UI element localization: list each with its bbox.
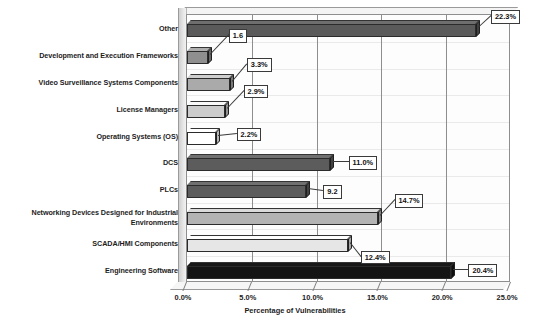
- gridline-horizontal: [187, 203, 509, 204]
- data-label: 20.4%: [468, 264, 497, 278]
- data-label: 9.2: [323, 185, 341, 199]
- bar: [187, 128, 221, 146]
- data-label: 2.2%: [237, 128, 262, 142]
- gridline-horizontal: [187, 122, 509, 123]
- value-axis-title: Percentage of Vulnerabilities: [0, 306, 534, 315]
- vulnerability-bar-chart: OtherDevelopment and Execution Framework…: [0, 0, 534, 331]
- bar-face: [187, 105, 225, 118]
- bar-face: [187, 158, 330, 171]
- axis-tick-label: 25.0%: [497, 293, 518, 302]
- axis-tick-label: 5.0%: [239, 293, 256, 302]
- axis-tick-label: 20.0%: [432, 293, 453, 302]
- bar-side-face: [378, 208, 382, 225]
- plot-area: [186, 14, 510, 282]
- bar-face: [187, 132, 216, 145]
- bar: [187, 74, 235, 92]
- bar-side-face: [306, 181, 310, 198]
- bar: [187, 47, 213, 65]
- axis-tick: [247, 282, 252, 291]
- category-label: Operating Systems (OS): [0, 132, 178, 142]
- data-label: 3.3%: [247, 58, 272, 72]
- bar-face: [187, 51, 208, 64]
- category-label: Networking Devices Designed for Industri…: [0, 208, 178, 227]
- bar: [187, 101, 230, 119]
- axis-tick: [442, 282, 447, 291]
- bar-side-face: [451, 262, 455, 279]
- data-label: 11.0%: [349, 156, 378, 170]
- data-label: 12.4%: [361, 251, 390, 265]
- bar-side-face: [476, 20, 480, 37]
- gridline-horizontal: [187, 95, 509, 96]
- gridline-vertical: [446, 15, 447, 281]
- axis-tick-label: 0.0%: [175, 293, 192, 302]
- axis-tick: [312, 282, 317, 291]
- axis-tick: [377, 282, 382, 291]
- data-label: 1.6: [229, 29, 247, 43]
- bar-side-face: [225, 101, 229, 118]
- bar-face: [187, 266, 451, 279]
- bar-face: [187, 239, 348, 252]
- bar-face: [187, 212, 378, 225]
- category-label: License Managers: [0, 105, 178, 115]
- category-label: Development and Execution Frameworks: [0, 51, 178, 61]
- bar: [187, 154, 335, 172]
- bar: [187, 235, 353, 253]
- category-label: Video Surveillance Systems Components: [0, 78, 178, 88]
- gridline-horizontal: [187, 149, 509, 150]
- data-label: 2.9%: [244, 85, 269, 99]
- axis-tick-label: 10.0%: [302, 293, 323, 302]
- bar: [187, 181, 311, 199]
- gridline-horizontal: [187, 176, 509, 177]
- category-label: PLCs: [0, 185, 178, 195]
- bar-side-face: [208, 47, 212, 64]
- bar-face: [187, 78, 230, 91]
- gridline-horizontal: [187, 256, 509, 257]
- category-label: SCADA/HMI Components: [0, 239, 178, 249]
- axis-tick-label: 15.0%: [367, 293, 388, 302]
- bar: [187, 262, 456, 280]
- bar-face: [187, 185, 306, 198]
- bar-side-face: [230, 74, 234, 91]
- value-axis: 0.0%5.0%10.0%15.0%20.0%25.0%: [186, 282, 526, 306]
- axis-tick: [506, 282, 511, 291]
- category-axis: OtherDevelopment and Execution Framework…: [0, 0, 182, 331]
- bar: [187, 208, 383, 226]
- data-label-leader-line: [453, 269, 468, 270]
- category-label: DCS: [0, 159, 178, 169]
- data-label: 14.7%: [395, 194, 424, 208]
- data-label-leader-line: [332, 161, 349, 162]
- category-label: Other: [0, 25, 178, 35]
- bar-side-face: [216, 128, 220, 145]
- data-label: 22.3%: [491, 10, 520, 24]
- gridline-horizontal: [187, 229, 509, 230]
- gridline-horizontal: [187, 69, 509, 70]
- gridline-vertical: [381, 15, 382, 281]
- category-label: Engineering Software: [0, 266, 178, 276]
- bar-side-face: [330, 154, 334, 171]
